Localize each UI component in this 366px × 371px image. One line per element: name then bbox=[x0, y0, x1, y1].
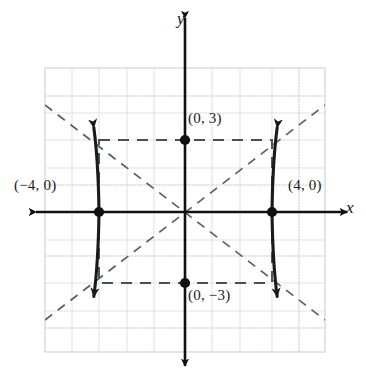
y-axis-label: y bbox=[177, 9, 185, 29]
point-label-top: (0, 3) bbox=[188, 110, 222, 127]
point-label-bottom: (0, −3) bbox=[188, 287, 230, 304]
point-label-right: (4, 0) bbox=[288, 177, 322, 194]
x-axis-label: x bbox=[346, 198, 354, 218]
point-marker-vertex-right bbox=[267, 207, 277, 217]
point-marker-vertex-left bbox=[94, 207, 104, 217]
point-label-left: (−4, 0) bbox=[14, 177, 56, 194]
point-marker-covertex-top bbox=[180, 135, 190, 145]
